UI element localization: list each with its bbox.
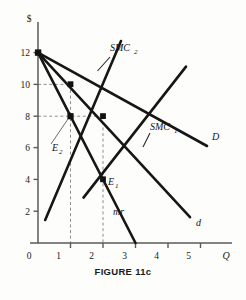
y-tick-label-6: 6: [25, 143, 30, 153]
label-smc2-text: SMC: [110, 42, 130, 53]
label-smc1-text: SMC: [150, 121, 170, 132]
x-tick-label-3: 3: [122, 251, 127, 261]
label-big-D: D: [211, 131, 220, 142]
label-smc1-subscript: 1: [174, 127, 178, 135]
x-origin-label: 0: [27, 251, 32, 261]
label-e2: E 2: [51, 142, 63, 156]
y-tick-label-10: 10: [21, 80, 31, 90]
label-mr: mr: [113, 206, 124, 217]
marker-q1-p8: [67, 113, 73, 119]
x-tick-labels: 0 1 2 3 4 5: [27, 251, 192, 261]
y-axis-title: $: [27, 14, 32, 24]
x-tick-label-4: 4: [154, 251, 159, 261]
leader-e2: [51, 119, 68, 144]
y-tick-label-12: 12: [21, 48, 31, 58]
x-tick-label-2: 2: [89, 251, 94, 261]
marker-intercept-12: [35, 49, 41, 55]
x-tick-label-5: 5: [186, 251, 191, 261]
label-small-d: d: [196, 217, 202, 228]
curve-labels: SMC 2 SMC 1 mr D d E 1 E 2: [51, 42, 220, 228]
marker-e1-point: [100, 176, 106, 182]
label-e2-text: E: [51, 142, 58, 153]
marker-q1-p10: [68, 81, 74, 87]
label-e2-subscript: 2: [59, 148, 63, 156]
y-tick-label-4: 4: [25, 175, 30, 185]
label-e1-subscript: 1: [115, 182, 119, 190]
y-tick-label-8: 8: [25, 112, 30, 122]
marker-q2-p8: [100, 113, 106, 119]
y-tick-labels: 2 4 6 8 10 12: [21, 48, 31, 217]
curve-small-d: [38, 53, 190, 218]
x-tick-label-1: 1: [56, 251, 61, 261]
label-smc1: SMC 1: [150, 121, 178, 135]
x-axis-title: Q: [222, 250, 230, 261]
economics-chart: 2 4 6 8 10 12 0 1 2 3 4 5 $ Q SMC 2: [0, 0, 246, 300]
leader-smc1: [143, 133, 150, 147]
figure-container: 2 4 6 8 10 12 0 1 2 3 4 5 $ Q SMC 2: [0, 0, 246, 300]
figure-caption: FIGURE 11c: [0, 266, 246, 277]
label-e1-text: E: [107, 176, 114, 187]
label-smc2-subscript: 2: [134, 48, 138, 56]
y-tick-label-2: 2: [25, 207, 30, 217]
